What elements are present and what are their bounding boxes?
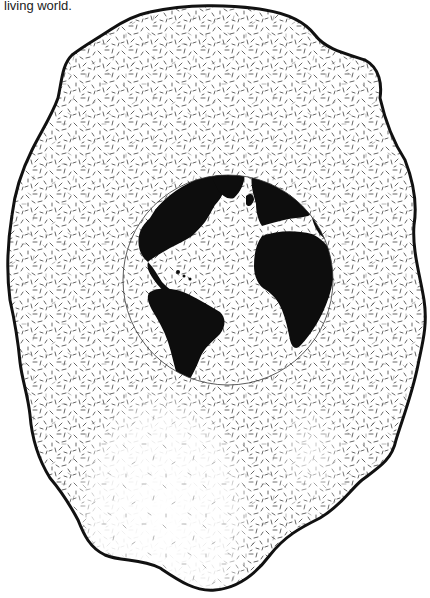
biosphere-illustration bbox=[0, 0, 430, 598]
